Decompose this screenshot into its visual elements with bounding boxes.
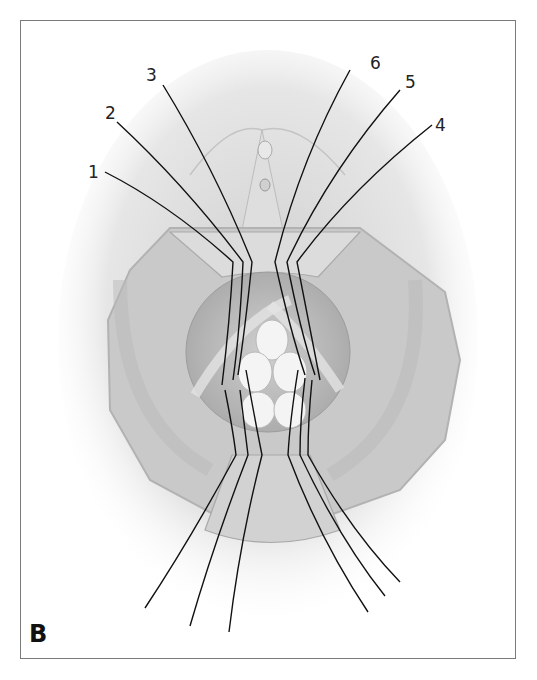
suture-label-1: 1: [88, 164, 99, 181]
suture-label-2: 2: [105, 105, 116, 122]
panel-letter: B: [29, 620, 47, 648]
suture-label-4: 4: [435, 117, 446, 134]
suture-label-5: 5: [405, 74, 416, 91]
suture-label-6: 6: [370, 55, 381, 72]
surgical-illustration: [0, 0, 537, 680]
suture-label-3: 3: [146, 67, 157, 84]
